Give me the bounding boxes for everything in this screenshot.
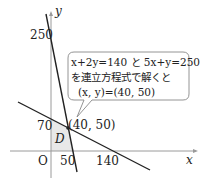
- callout-line-2: を連立方程式で解くと: [68, 70, 189, 85]
- y-axis-label: y: [55, 5, 62, 17]
- callout-text: x+2y=140 と 5x+y=250 を連立方程式で解くと (x, y)=(4…: [68, 52, 189, 100]
- y-tick-70: 70: [37, 120, 52, 132]
- lp-diagram: y x O 250 70 50 140 (40, 50) D x+2y=140 …: [0, 0, 200, 184]
- x-axis-arrow-icon: [193, 149, 198, 153]
- y-axis-arrow-icon: [49, 11, 53, 16]
- intersection-label: (40, 50): [68, 119, 116, 131]
- callout-line-3: (x, y)=(40, 50): [68, 85, 189, 100]
- y-tick-250: 250: [30, 29, 53, 41]
- x-tick-50: 50: [60, 155, 75, 167]
- callout-line-1: x+2y=140 と 5x+y=250: [68, 52, 189, 70]
- x-tick-140: 140: [96, 155, 119, 167]
- region-d-label: D: [55, 133, 65, 145]
- origin-label: O: [38, 155, 48, 167]
- x-axis-label: x: [186, 154, 193, 166]
